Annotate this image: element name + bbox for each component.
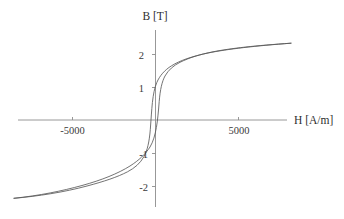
y-tick-label-neg1: -1 [139, 149, 148, 160]
y-tick-label-2: 2 [139, 50, 144, 61]
x-tick-label-5000: 5000 [229, 125, 250, 136]
y-tick-label-neg2: -2 [139, 182, 148, 193]
y-axis-title: B [T] [142, 10, 167, 22]
x-axis-title: H [A/m] [294, 114, 333, 126]
hysteresis-chart-figure: 2 1 -1 -2 -5000 5000 B [T] H [A/m] [0, 0, 344, 219]
chart-background [0, 0, 344, 219]
bh-hysteresis-plot: 2 1 -1 -2 -5000 5000 B [T] H [A/m] [0, 0, 344, 219]
y-tick-label-1: 1 [139, 83, 144, 94]
x-tick-label-neg5000: -5000 [60, 125, 85, 136]
